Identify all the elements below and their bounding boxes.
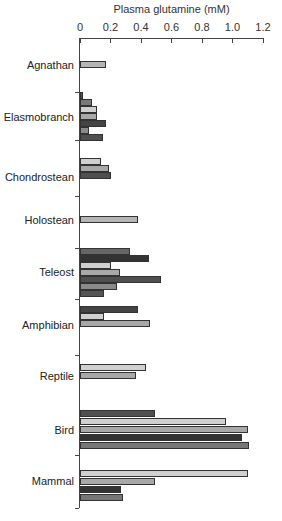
bar xyxy=(80,442,249,449)
bar xyxy=(80,134,103,141)
bar xyxy=(80,426,248,433)
bar xyxy=(80,290,104,297)
x-axis-line xyxy=(79,38,264,39)
bar xyxy=(80,470,248,477)
category-label: Elasmobranch xyxy=(4,111,74,123)
bar xyxy=(80,120,106,127)
bar xyxy=(80,269,120,276)
bar xyxy=(80,127,89,134)
bar xyxy=(80,165,109,172)
x-axis-title: Plasma glutamine (mM) xyxy=(80,3,263,15)
bar xyxy=(80,113,97,120)
category-label: Amphibian xyxy=(22,319,74,331)
y-tick-mark xyxy=(75,196,79,197)
category-label: Reptile xyxy=(40,370,74,382)
x-tick-label: 0.8 xyxy=(194,21,209,33)
category-label: Mammal xyxy=(32,475,74,487)
category-label: Holostean xyxy=(24,214,74,226)
x-tick-label: 0.4 xyxy=(133,21,148,33)
bar xyxy=(80,313,104,320)
bar xyxy=(80,494,123,501)
bar xyxy=(80,372,136,379)
bar-chart: Plasma glutamine (mM) 00.20.40.60.81.01.… xyxy=(0,0,282,521)
y-tick-mark xyxy=(75,299,79,300)
x-tick-label: 1.0 xyxy=(225,21,240,33)
category-label: Teleost xyxy=(39,266,74,278)
category-label: Agnathan xyxy=(27,59,74,71)
bar xyxy=(80,364,146,371)
bar xyxy=(80,410,155,417)
x-tick-label: 0.2 xyxy=(103,21,118,33)
bar xyxy=(80,434,242,441)
bar xyxy=(80,106,97,113)
bar xyxy=(80,478,155,485)
y-tick-mark xyxy=(75,455,79,456)
category-label: Bird xyxy=(54,424,74,436)
bar xyxy=(80,276,161,283)
category-label: Chondrostean xyxy=(5,171,74,183)
y-tick-mark xyxy=(75,92,79,93)
bar xyxy=(80,283,117,290)
x-tick-label: 0 xyxy=(77,21,83,33)
bar xyxy=(80,61,106,68)
x-tick-label: 1.2 xyxy=(255,21,270,33)
y-tick-mark xyxy=(75,508,79,509)
bar xyxy=(80,172,111,179)
y-tick-mark xyxy=(75,248,79,249)
bar xyxy=(80,216,138,223)
bar xyxy=(80,248,130,255)
bar xyxy=(80,486,121,493)
y-tick-mark xyxy=(75,355,79,356)
bar xyxy=(80,158,101,165)
bar xyxy=(80,418,226,425)
y-tick-mark xyxy=(75,140,79,141)
bar xyxy=(80,306,138,313)
bar xyxy=(80,99,92,106)
bar xyxy=(80,92,83,99)
bar xyxy=(80,320,150,327)
bar xyxy=(80,262,111,269)
bar xyxy=(80,255,149,262)
x-tick-label: 0.6 xyxy=(164,21,179,33)
